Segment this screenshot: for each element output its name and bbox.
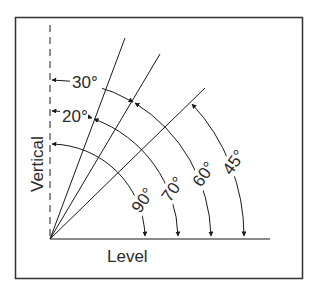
arc-70 — [94, 119, 178, 236]
ray-20-from-vertical — [50, 38, 125, 239]
label-30: 30° — [72, 73, 98, 92]
vertical-axis-label: Vertical — [28, 136, 47, 192]
arc-90 — [52, 144, 145, 236]
angle-diagram: 30° 20° 90° 70° 60° 45° Vertical Level — [0, 0, 314, 292]
level-axis-label: Level — [107, 247, 148, 266]
label-20: 20° — [62, 107, 88, 126]
